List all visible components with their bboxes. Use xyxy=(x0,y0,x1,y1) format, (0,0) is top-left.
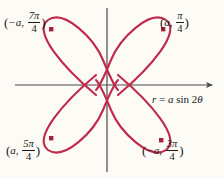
fraction-numerator: 3π xyxy=(166,139,179,150)
equation-theta: θ xyxy=(197,93,202,105)
equation-r: r xyxy=(152,93,156,105)
polar-rose-figure: (−a, 7π 4 ) (a, π 4 ) (a, 5π 4 ) (−a, 3π… xyxy=(0,0,224,178)
marker-bottom-left xyxy=(49,136,53,140)
paren-close: ) xyxy=(185,15,189,30)
point-label-top-left: (−a, 7π 4 ) xyxy=(4,12,46,35)
comma: , xyxy=(170,16,173,28)
radius-value: −a xyxy=(8,16,21,28)
paren-close: ) xyxy=(179,143,183,158)
fraction-denominator: 4 xyxy=(176,24,183,35)
point-label-bottom-left: (a, 5π 4 ) xyxy=(6,140,40,163)
comma: , xyxy=(16,144,19,156)
fraction-numerator: π xyxy=(176,11,183,22)
comma: , xyxy=(159,144,162,156)
fraction-denominator: 4 xyxy=(166,152,179,163)
angle-fraction: π 4 xyxy=(176,11,183,34)
paren-close: ) xyxy=(41,15,45,30)
fraction-numerator: 7π xyxy=(28,11,41,22)
comma: , xyxy=(21,16,24,28)
fraction-denominator: 4 xyxy=(22,152,35,163)
fraction-denominator: 4 xyxy=(28,24,41,35)
curve-equation-label: r = a sin 2θ xyxy=(152,93,203,105)
equation-amplitude: a xyxy=(168,93,174,105)
point-label-bottom-right: (−a, 3π 4 ) xyxy=(142,140,184,163)
equation-equals: = xyxy=(159,93,165,105)
point-label-top-right: (a, π 4 ) xyxy=(160,12,189,35)
equation-function: sin 2 xyxy=(176,93,197,105)
fraction-numerator: 5π xyxy=(22,139,35,150)
angle-fraction: 3π 4 xyxy=(166,139,179,162)
angle-fraction: 7π 4 xyxy=(28,11,41,34)
paren-close: ) xyxy=(36,143,40,158)
radius-value: −a xyxy=(146,144,159,156)
angle-fraction: 5π 4 xyxy=(22,139,35,162)
marker-top-left xyxy=(49,27,53,31)
